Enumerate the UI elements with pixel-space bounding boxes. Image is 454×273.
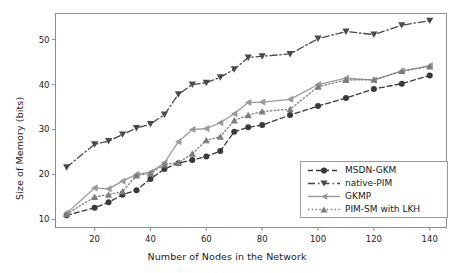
legend-swatch-native-pim — [307, 177, 341, 190]
data-point-marker — [231, 110, 237, 117]
data-point-marker — [259, 122, 265, 128]
chart-legend: MSDN-GKM native-PIM GKMP PIM-SM with LKH — [300, 161, 448, 218]
legend-item-gkmp: GKMP — [305, 190, 447, 203]
data-point-marker — [399, 81, 405, 87]
data-point-marker — [315, 103, 321, 109]
data-point-marker — [342, 28, 349, 34]
data-point-marker — [147, 176, 153, 182]
x-tick-label: 60 — [201, 234, 212, 244]
data-point-marker — [203, 137, 210, 143]
legend-label-pim-sm-with-lkh: PIM-SM with LKH — [345, 203, 420, 216]
data-point-marker — [287, 96, 293, 103]
data-point-marker — [426, 18, 433, 24]
data-point-marker — [133, 187, 139, 193]
data-point-marker — [189, 157, 195, 163]
legend-item-msdn-gkm: MSDN-GKM — [305, 164, 447, 177]
data-point-marker — [259, 98, 265, 105]
line-chart-plot — [0, 0, 454, 273]
data-point-marker — [119, 178, 125, 185]
data-point-marker — [427, 73, 433, 79]
data-point-marker — [133, 125, 140, 131]
y-tick-label: 40 — [32, 80, 50, 90]
data-point-marker — [231, 129, 237, 135]
data-point-marker — [119, 131, 126, 137]
series-line — [67, 21, 430, 168]
legend-swatch-msdn-gkm — [307, 164, 341, 177]
y-tick-label: 10 — [32, 214, 50, 224]
data-point-marker — [217, 148, 223, 154]
data-point-marker — [371, 86, 377, 92]
data-point-marker — [106, 199, 112, 205]
data-point-marker — [63, 164, 70, 170]
data-point-marker — [217, 74, 224, 80]
data-point-marker — [175, 138, 181, 145]
data-point-marker — [92, 205, 98, 211]
data-point-marker — [175, 91, 182, 97]
legend-swatch-pim-sm-with-lkh — [307, 203, 341, 216]
x-tick-label: 100 — [310, 234, 326, 244]
data-point-marker — [231, 66, 238, 72]
data-point-marker — [245, 124, 251, 130]
data-point-marker — [203, 153, 209, 159]
data-point-marker — [314, 36, 321, 42]
data-point-marker — [231, 117, 238, 123]
x-tick-label: 40 — [145, 234, 156, 244]
data-point-marker — [217, 119, 223, 126]
legend-label-gkmp: GKMP — [345, 190, 371, 203]
series-native-pim — [63, 18, 433, 171]
legend-label-native-pim: native-PIM — [345, 177, 392, 190]
y-tick-label: 50 — [32, 35, 50, 45]
x-tick-label: 140 — [422, 234, 438, 244]
chart-figure: Number of Nodes in the Network Size of M… — [0, 0, 454, 273]
data-point-marker — [370, 32, 377, 38]
data-point-marker — [203, 125, 209, 132]
data-point-marker — [343, 95, 349, 101]
data-point-marker — [147, 121, 154, 127]
data-point-marker — [105, 185, 111, 192]
y-tick-label: 30 — [32, 124, 50, 134]
x-tick-label: 20 — [89, 234, 100, 244]
x-axis-label: Number of Nodes in the Network — [0, 251, 454, 262]
legend-item-pim-sm-with-lkh: PIM-SM with LKH — [305, 203, 447, 216]
x-tick-label: 80 — [257, 234, 268, 244]
legend-swatch-gkmp — [307, 190, 341, 203]
x-tick-label: 120 — [366, 234, 382, 244]
y-tick-label: 20 — [32, 169, 50, 179]
legend-label-msdn-gkm: MSDN-GKM — [345, 164, 396, 177]
legend-item-native-pim: native-PIM — [305, 177, 447, 190]
data-point-marker — [245, 112, 252, 118]
data-point-marker — [287, 112, 293, 118]
y-axis-label: Size of Memory (bits) — [14, 97, 25, 200]
